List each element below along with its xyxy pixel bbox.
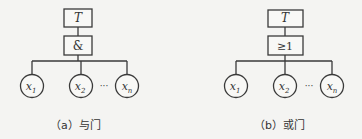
gate-symbol: ≥1	[277, 40, 293, 53]
ellipsis: ···	[305, 81, 314, 91]
ellipsis: ···	[100, 81, 109, 91]
gate-symbol: &	[73, 39, 84, 53]
caption-and-gate: （a）与门	[50, 116, 101, 132]
top-event-label: T	[281, 11, 290, 25]
caption-or-gate: （b）或门	[254, 116, 305, 132]
top-event-label: T	[74, 11, 83, 25]
